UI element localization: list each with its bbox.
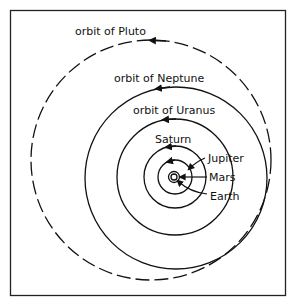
label-orbit-of-neptune: orbit of Neptune [114,72,204,85]
solar-system-diagram: orbit of Pluto orbit of Neptune orbit of… [0,0,296,308]
earth-orbit [171,174,177,180]
uranus-direction-arrow-icon [165,119,176,120]
mars-orbit [169,172,180,183]
label-mars: Mars [209,171,236,184]
label-orbit-of-pluto: orbit of Pluto [75,25,146,38]
pluto-direction-arrow-icon [152,41,166,42]
label-orbit-of-uranus: orbit of Uranus [133,104,215,117]
frame-border [11,11,286,296]
label-jupiter: Jupiter [207,152,244,165]
neptune-direction-arrow-icon [158,87,170,89]
label-earth: Earth [210,190,240,203]
label-saturn: Saturn [155,133,191,146]
